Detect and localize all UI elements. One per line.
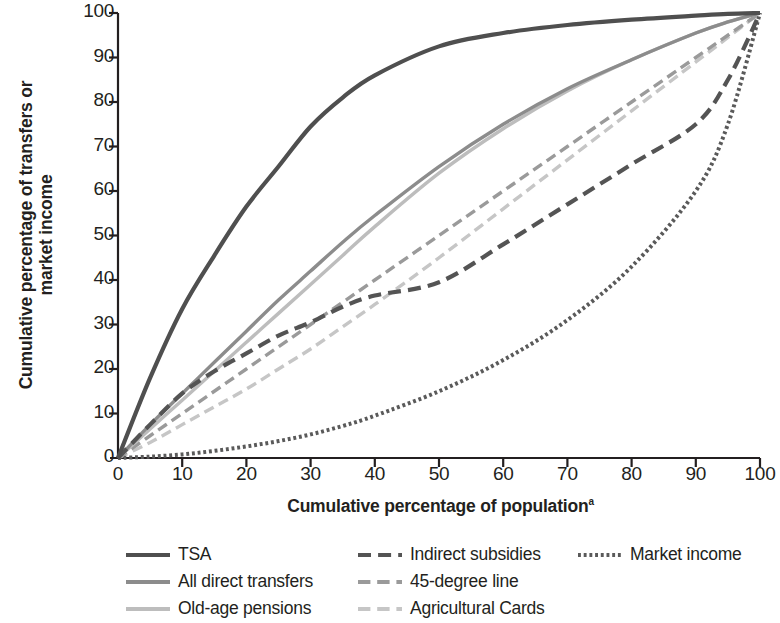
x-axis-tick-label: 90: [666, 463, 726, 485]
legend-item[interactable]: TSA: [126, 542, 211, 568]
legend-item[interactable]: Old-age pensions: [126, 596, 311, 622]
x-axis-tick-label: 10: [152, 463, 212, 485]
legend-line-swatch: [358, 602, 402, 616]
legend-line-swatch: [578, 548, 622, 562]
legend-item-label: All direct transfers: [178, 573, 313, 591]
x-axis-tick-label: 30: [281, 463, 341, 485]
legend-line-swatch: [358, 575, 402, 589]
x-axis-tick-label: 70: [537, 463, 597, 485]
chart-legend: TSAAll direct transfersOld-age pensionsI…: [126, 542, 776, 620]
legend-item-label: TSA: [178, 546, 211, 564]
x-axis-tick-label: 40: [345, 463, 405, 485]
lorenz-curve-figure: Cumulative percentage of transfers or ma…: [0, 0, 780, 623]
x-axis-tick-label: 60: [473, 463, 533, 485]
x-axis-tick-label: 0: [88, 463, 148, 485]
series-line-45-degree-line: [118, 13, 760, 458]
x-axis-tick-labels: 0102030405060708090100: [0, 463, 780, 493]
x-axis-tick-label: 100: [730, 463, 780, 485]
legend-item[interactable]: Agricultural Cards: [358, 596, 545, 622]
legend-item-label: Agricultural Cards: [410, 600, 545, 618]
plot-area: [0, 0, 780, 500]
x-axis-title-note: a: [588, 496, 593, 507]
x-axis-tick-label: 50: [409, 463, 469, 485]
legend-item-label: Market income: [630, 546, 742, 564]
legend-item[interactable]: Market income: [578, 542, 742, 568]
legend-line-swatch: [126, 602, 170, 616]
legend-item[interactable]: All direct transfers: [126, 569, 313, 595]
x-axis-tick-label: 20: [216, 463, 276, 485]
x-axis-tick-label: 80: [602, 463, 662, 485]
x-axis-title-text: Cumulative percentage of population: [287, 496, 588, 516]
legend-item[interactable]: 45-degree line: [358, 569, 518, 595]
legend-item-label: Old-age pensions: [178, 600, 311, 618]
legend-line-swatch: [358, 548, 402, 562]
legend-line-swatch: [126, 575, 170, 589]
legend-line-swatch: [126, 548, 170, 562]
legend-item[interactable]: Indirect subsidies: [358, 542, 541, 568]
legend-item-label: 45-degree line: [410, 573, 518, 591]
x-axis-title: Cumulative percentage of populationa: [118, 496, 763, 517]
legend-item-label: Indirect subsidies: [410, 546, 541, 564]
